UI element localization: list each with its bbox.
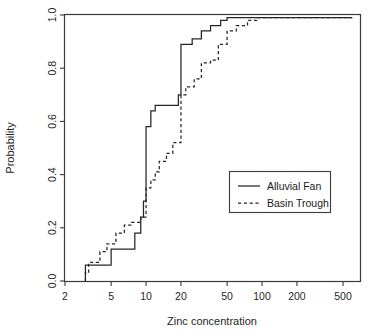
y-tick-label: 0.8 bbox=[46, 61, 58, 76]
ecdf-chart-figure: 0.00.20.40.60.81.0 25102050100200500 Zin… bbox=[0, 0, 377, 334]
legend-label-basin-trough: Basin Trough bbox=[267, 197, 329, 209]
chart-legend: Alluvial FanBasin Trough bbox=[230, 172, 331, 213]
y-tick-label: 0.2 bbox=[46, 220, 58, 235]
x-tick-label: 10 bbox=[140, 290, 152, 302]
x-tick-label: 50 bbox=[221, 290, 233, 302]
y-tick-label: 1.0 bbox=[46, 8, 58, 23]
x-tick-label: 2 bbox=[62, 290, 68, 302]
chart-canvas: 0.00.20.40.60.81.0 25102050100200500 Zin… bbox=[0, 0, 377, 334]
y-tick-label: 0.6 bbox=[46, 114, 58, 129]
y-tick-label: 0.4 bbox=[46, 167, 58, 182]
data-series-layer bbox=[85, 18, 352, 281]
y-axis-tick-labels: 0.00.20.40.60.81.0 bbox=[46, 8, 58, 289]
x-tick-label: 500 bbox=[334, 290, 352, 302]
x-tick-label: 20 bbox=[175, 290, 187, 302]
series-line-basin-trough bbox=[85, 18, 352, 281]
x-tick-label: 5 bbox=[108, 290, 114, 302]
legend-label-alluvial-fan: Alluvial Fan bbox=[267, 180, 321, 192]
x-axis-label: Zinc concentration bbox=[167, 315, 257, 327]
x-tick-label: 200 bbox=[288, 290, 306, 302]
x-tick-label: 100 bbox=[253, 290, 271, 302]
y-axis-label: Probability bbox=[4, 122, 16, 174]
y-tick-label: 0.0 bbox=[46, 274, 58, 289]
plot-frame bbox=[65, 15, 361, 282]
x-axis-tick-labels: 25102050100200500 bbox=[62, 290, 352, 302]
